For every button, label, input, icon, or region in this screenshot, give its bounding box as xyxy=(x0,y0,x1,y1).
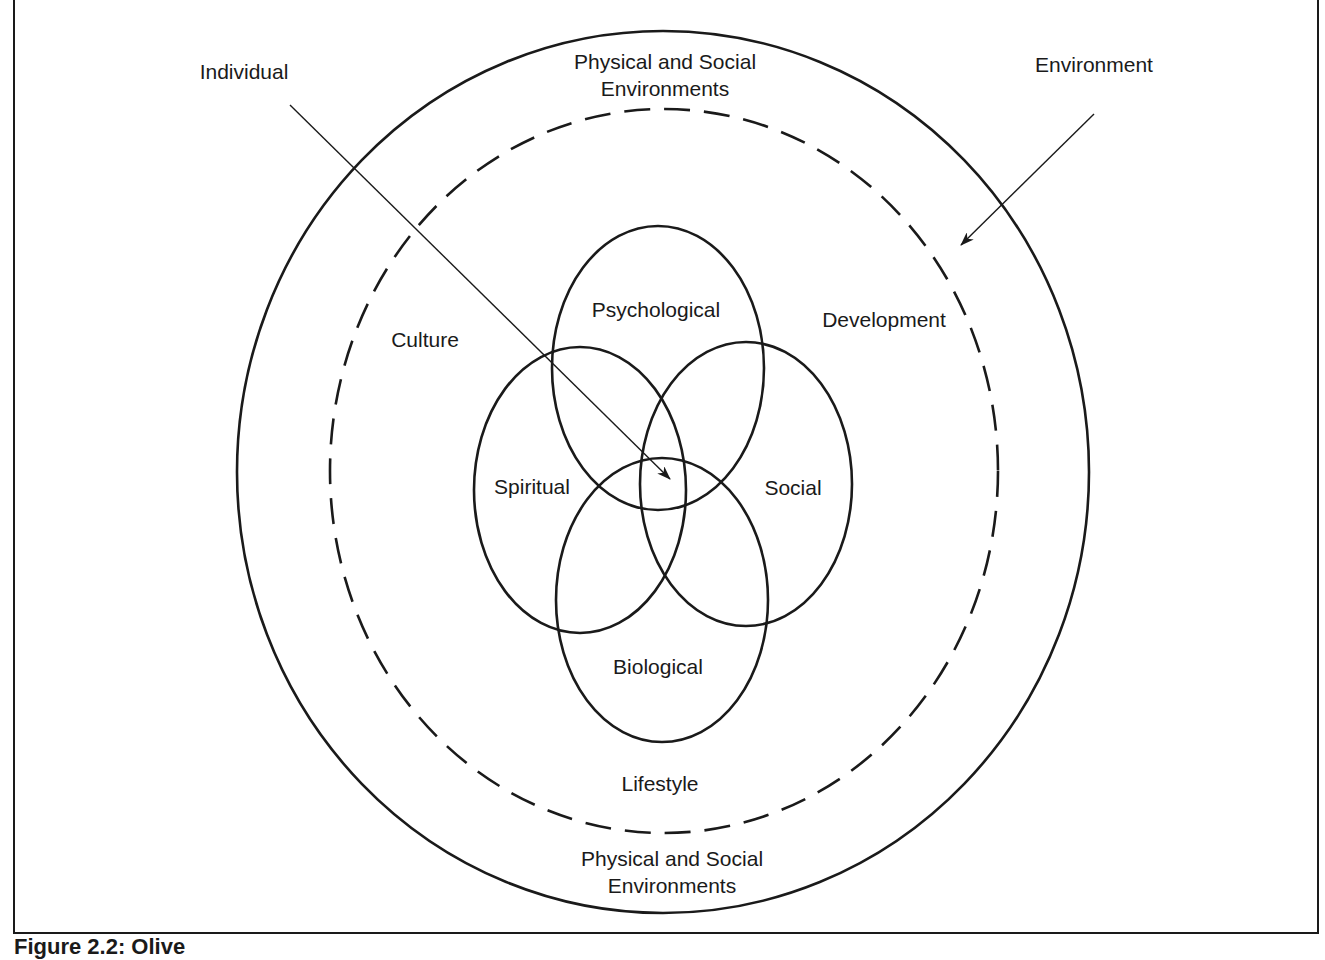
biological-ellipse xyxy=(556,458,768,742)
lifestyle-label: Lifestyle xyxy=(621,771,698,797)
figure-caption: Figure 2.2: Olive xyxy=(14,934,185,960)
physical-social-top-line2: Environments xyxy=(574,75,756,102)
dashed-boundary-ring xyxy=(330,109,998,833)
development-label: Development xyxy=(822,307,946,333)
physical-social-environments-top-label: Physical and Social Environments xyxy=(574,48,756,102)
physical-social-environments-bottom-label: Physical and Social Environments xyxy=(581,845,763,899)
individual-pointer-arrow xyxy=(290,105,670,479)
culture-label: Culture xyxy=(391,327,459,353)
social-label: Social xyxy=(764,475,821,501)
physical-social-top-line1: Physical and Social xyxy=(574,48,756,75)
environment-label: Environment xyxy=(1035,52,1153,78)
biological-label: Biological xyxy=(613,654,703,680)
psychological-label: Psychological xyxy=(592,297,720,323)
physical-social-bottom-line2: Environments xyxy=(581,872,763,899)
physical-social-bottom-line1: Physical and Social xyxy=(581,845,763,872)
individual-label: Individual xyxy=(200,59,289,85)
spiritual-label: Spiritual xyxy=(494,474,570,500)
